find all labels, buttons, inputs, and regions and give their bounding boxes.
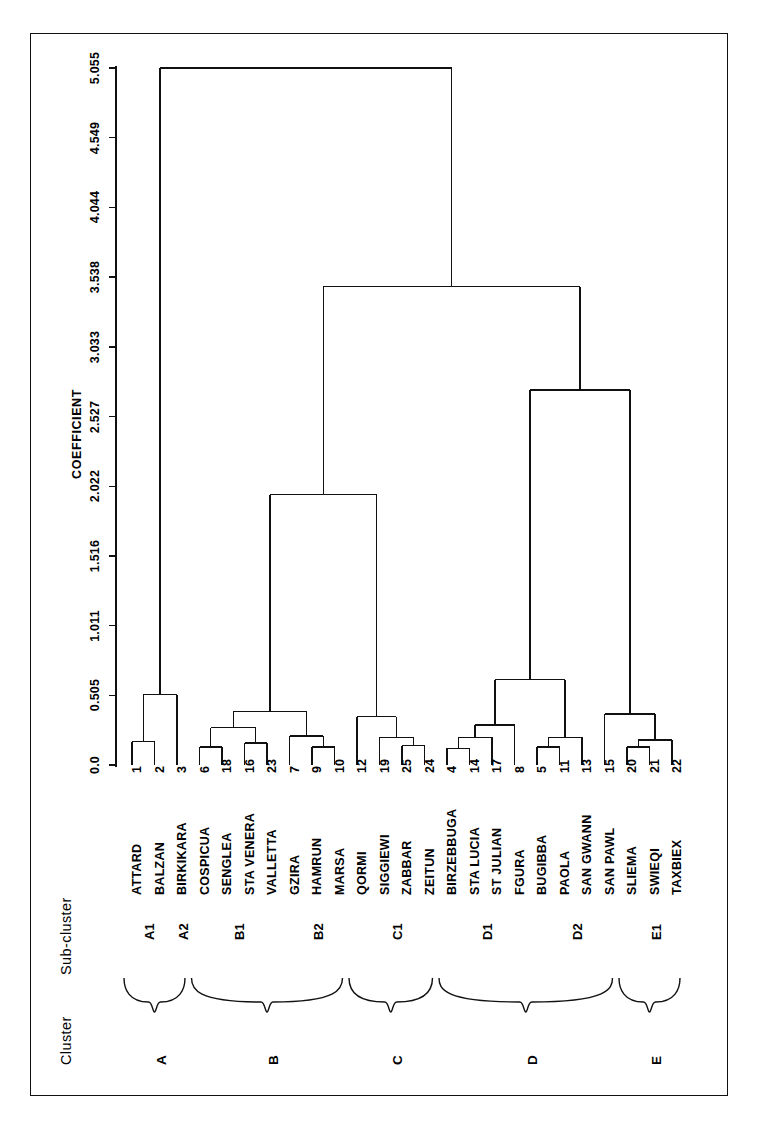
- leaf-label: MARSA: [333, 848, 347, 895]
- cluster-label: A: [153, 1055, 168, 1065]
- leaf-label: SLIEMA: [625, 846, 639, 895]
- leaf-number: 18: [220, 759, 234, 773]
- cluster-label: C: [389, 1055, 404, 1065]
- leaf-number: 10: [333, 759, 347, 773]
- leaf-label: ZEITUN: [423, 848, 437, 895]
- leaf-number: 15: [603, 759, 617, 773]
- leaf-label: BUGIBBA: [535, 835, 549, 895]
- axis-tick-label: 2.527: [88, 400, 102, 432]
- axis-tick-label: 1.011: [88, 610, 102, 642]
- leaf-number: 23: [265, 759, 279, 773]
- leaf-label: SAN PAWL: [603, 828, 617, 895]
- axis-tick-label: 3.033: [88, 331, 102, 363]
- leaf-label: ZABBAR: [400, 840, 414, 895]
- leaf-number: 5: [535, 766, 549, 773]
- leaf-label: QORMI: [355, 851, 369, 895]
- subcluster-label: A1: [142, 923, 157, 940]
- leaf-number: 21: [648, 759, 662, 773]
- subcluster-header: Sub-cluster: [58, 897, 74, 975]
- leaf-number: 8: [513, 766, 527, 773]
- leaf-label: STA VENERA: [243, 813, 257, 895]
- axis-tick-label: 4.549: [88, 122, 102, 154]
- leaf-label: ATTARD: [130, 844, 144, 895]
- leaf-number: 25: [400, 759, 414, 773]
- leaf-number: 22: [670, 759, 684, 773]
- axis-tick-label: 5.055: [88, 52, 102, 84]
- leaf-label: COSPICUA: [198, 827, 212, 895]
- leaf-label: PAOLA: [558, 851, 572, 895]
- axis-title: COEFFICIENT: [70, 389, 84, 479]
- leaf-label: SWIEQI: [648, 848, 662, 895]
- subcluster-label: B1: [232, 923, 247, 940]
- axis-tick-label: 3.538: [88, 261, 102, 293]
- leaf-number: 9: [310, 766, 324, 773]
- leaf-number: 16: [243, 759, 257, 773]
- axis-tick-label: 0.505: [88, 679, 102, 711]
- leaf-label: VALLETTA: [265, 829, 279, 895]
- leaf-number: 2: [153, 766, 167, 773]
- leaf-number: 6: [198, 766, 212, 773]
- leaf-number: 12: [355, 759, 369, 773]
- cluster-label: B: [266, 1055, 281, 1065]
- leaf-number: 3: [175, 766, 189, 773]
- leaf-label: GZIRA: [288, 855, 302, 895]
- leaf-number: 13: [580, 759, 594, 773]
- dendrogram-page: 0.00.5051.0111.5162.0222.5273.0333.5384.…: [0, 0, 758, 1135]
- axis-tick-label: 2.022: [88, 470, 102, 502]
- leaf-label: FGURA: [513, 849, 527, 895]
- plot-frame: [30, 33, 728, 1096]
- leaf-number: 11: [558, 760, 572, 773]
- subcluster-label: C1: [389, 923, 404, 940]
- leaf-label: SENGLEA: [220, 832, 234, 895]
- cluster-label: E: [648, 1056, 663, 1065]
- subcluster-label: D1: [479, 923, 494, 940]
- leaf-number: 4: [445, 766, 459, 773]
- subcluster-label: D2: [569, 923, 584, 940]
- subcluster-label: A2: [176, 923, 191, 940]
- leaf-label: SIGGIEWI: [378, 834, 392, 895]
- leaf-label: STA LUCIA: [468, 827, 482, 895]
- leaf-number: 20: [625, 759, 639, 773]
- cluster-label: D: [524, 1055, 539, 1065]
- axis-tick-label: 4.044: [88, 191, 102, 223]
- leaf-number: 24: [423, 759, 437, 773]
- leaf-label: HAMRUN: [310, 838, 324, 895]
- leaf-label: BALZAN: [153, 842, 167, 895]
- leaf-number: 17: [490, 759, 504, 773]
- leaf-number: 1: [130, 766, 144, 773]
- axis-tick-label: 0.0: [88, 756, 102, 774]
- leaf-label: ST JULIAN: [490, 828, 504, 895]
- leaf-label: SAN GWANN: [580, 815, 594, 895]
- subcluster-label: B2: [311, 923, 326, 940]
- leaf-number: 14: [468, 759, 482, 773]
- leaf-label: BIRZEBBUGA: [445, 809, 459, 895]
- leaf-label: BIRKIKARA: [175, 822, 189, 895]
- leaf-number: 7: [288, 766, 302, 773]
- leaf-label: TAXBIEX: [670, 840, 684, 895]
- leaf-number: 19: [378, 759, 392, 773]
- cluster-header: Cluster: [58, 1016, 74, 1065]
- subcluster-label: E1: [648, 924, 663, 940]
- axis-tick-label: 1.516: [88, 540, 102, 572]
